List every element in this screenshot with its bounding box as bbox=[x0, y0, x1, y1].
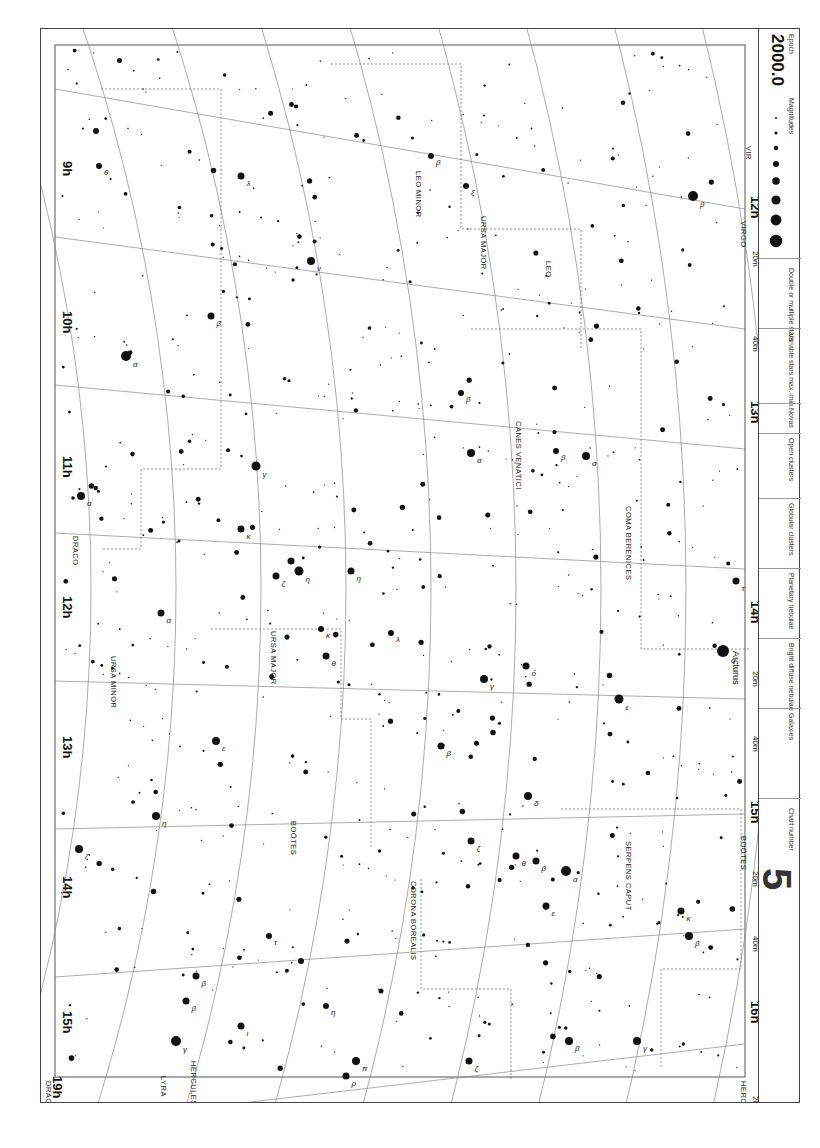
star bbox=[443, 730, 444, 731]
hour-circle-line bbox=[55, 929, 745, 977]
star bbox=[303, 770, 308, 775]
star bbox=[590, 588, 592, 590]
star bbox=[621, 284, 622, 285]
star bbox=[419, 558, 422, 561]
star bbox=[448, 206, 450, 208]
star bbox=[577, 871, 580, 874]
star bbox=[525, 676, 527, 678]
star bbox=[536, 424, 537, 425]
star bbox=[149, 638, 151, 640]
star bbox=[434, 348, 436, 350]
star bbox=[253, 187, 255, 189]
declination-line bbox=[41, 29, 176, 1102]
star bbox=[151, 889, 156, 894]
star bbox=[326, 988, 327, 989]
star bbox=[501, 702, 502, 703]
star bbox=[118, 777, 119, 778]
star bbox=[105, 932, 106, 933]
star bbox=[62, 812, 66, 816]
star bbox=[236, 897, 241, 902]
star bbox=[627, 741, 630, 744]
chart-number: 5 bbox=[754, 868, 799, 890]
star bbox=[130, 720, 132, 722]
star-label: λ bbox=[395, 635, 400, 644]
star bbox=[421, 891, 424, 894]
star bbox=[343, 864, 344, 865]
star bbox=[124, 192, 128, 196]
star bbox=[698, 769, 699, 770]
star bbox=[193, 374, 195, 376]
star bbox=[630, 833, 632, 835]
star bbox=[399, 558, 400, 559]
star bbox=[418, 408, 419, 409]
star bbox=[287, 379, 290, 382]
star bbox=[194, 638, 195, 639]
star bbox=[162, 718, 163, 719]
star bbox=[481, 272, 483, 274]
star bbox=[730, 718, 731, 719]
star bbox=[555, 464, 557, 466]
constellation-label: CANES VENATICI bbox=[514, 421, 523, 490]
star bbox=[509, 813, 511, 815]
star bbox=[458, 803, 460, 805]
star bbox=[579, 332, 580, 333]
star bbox=[650, 1048, 653, 1051]
star bbox=[435, 955, 437, 957]
star bbox=[385, 326, 386, 327]
star bbox=[479, 862, 482, 865]
star bbox=[396, 115, 400, 119]
star bbox=[229, 880, 230, 881]
star bbox=[662, 831, 663, 832]
star bbox=[617, 885, 619, 887]
star bbox=[539, 294, 540, 295]
star bbox=[509, 865, 514, 870]
star bbox=[323, 653, 330, 660]
star bbox=[688, 191, 698, 201]
star bbox=[183, 464, 184, 465]
star bbox=[582, 595, 583, 596]
star bbox=[297, 234, 302, 239]
star bbox=[336, 619, 337, 620]
star bbox=[541, 168, 545, 172]
star bbox=[567, 182, 568, 183]
star bbox=[384, 788, 385, 789]
star bbox=[289, 762, 290, 763]
star bbox=[666, 503, 670, 507]
hour-circle-line bbox=[55, 385, 745, 449]
star bbox=[305, 84, 307, 86]
named-star-label: Arcturus bbox=[731, 651, 741, 685]
star bbox=[296, 659, 298, 661]
star-label: τ bbox=[274, 938, 278, 947]
star bbox=[334, 527, 335, 528]
star bbox=[597, 893, 600, 896]
constellation-label: URSA MAJOR bbox=[269, 631, 278, 685]
star bbox=[352, 392, 353, 393]
star bbox=[136, 877, 138, 879]
star bbox=[437, 515, 442, 520]
star bbox=[258, 959, 259, 960]
star bbox=[138, 792, 140, 794]
star bbox=[356, 782, 357, 783]
star bbox=[248, 348, 249, 349]
star bbox=[681, 248, 684, 251]
star bbox=[93, 128, 99, 134]
star bbox=[700, 1051, 702, 1053]
star bbox=[198, 159, 200, 161]
star bbox=[238, 1023, 245, 1030]
star bbox=[659, 323, 660, 324]
star bbox=[643, 559, 645, 561]
star bbox=[142, 275, 144, 277]
star bbox=[229, 823, 234, 828]
star bbox=[673, 755, 675, 757]
star bbox=[588, 337, 593, 342]
star bbox=[260, 217, 262, 219]
constellation-boundary bbox=[211, 629, 371, 849]
star bbox=[98, 211, 99, 212]
star bbox=[451, 661, 452, 662]
star-label: θ bbox=[522, 859, 527, 868]
star bbox=[667, 531, 671, 535]
star bbox=[703, 952, 705, 954]
star bbox=[333, 632, 339, 638]
star bbox=[277, 220, 279, 222]
star bbox=[186, 931, 189, 934]
